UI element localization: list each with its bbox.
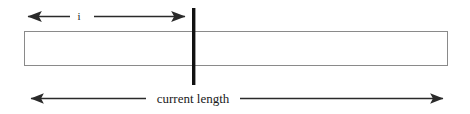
current-length-label: current length (157, 91, 230, 106)
index-marker-bar (192, 8, 195, 85)
diagram-canvas: i current length (0, 0, 470, 114)
array-rectangle (25, 32, 448, 66)
array-length-diagram: i current length (0, 0, 470, 114)
index-label: i (77, 10, 80, 22)
